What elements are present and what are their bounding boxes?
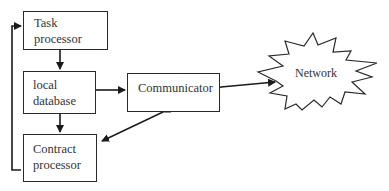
local-database-box: local database [23, 71, 96, 114]
local-database-label-line1: local [33, 77, 76, 93]
task-processor-label: Task processor [34, 15, 82, 47]
task-processor-box: Task processor [23, 11, 108, 50]
local-database-label: local database [33, 77, 76, 109]
contract-processor-label-line1: Contract [33, 141, 81, 157]
communicator-label: Communicator [138, 80, 213, 96]
contract-processor-label-line2: processor [33, 157, 81, 173]
edge-comm-contract [102, 112, 163, 141]
contract-processor-label: Contract processor [33, 141, 81, 173]
contract-processor-box: Contract processor [23, 134, 97, 182]
local-database-label-line2: database [33, 93, 76, 109]
task-processor-label-line2: processor [34, 31, 82, 47]
task-processor-label-line1: Task [34, 15, 82, 31]
network-label: Network [295, 65, 337, 81]
communicator-box: Communicator [127, 73, 220, 112]
edge-loop-contract-task [12, 26, 21, 170]
edge-comm-network [221, 82, 275, 87]
